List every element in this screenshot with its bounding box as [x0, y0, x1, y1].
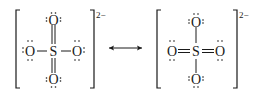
left-bracket-close — [90, 10, 94, 88]
oxygen-top: O — [48, 13, 58, 28]
resonance-diagram: 2− S O O O O — [0, 0, 257, 95]
oxygen-right: O — [72, 44, 82, 59]
sulfur-atom: S — [50, 44, 58, 59]
oxygen-right: O — [215, 44, 225, 59]
left-charge-label: 2− — [96, 10, 106, 20]
sulfur-atom: S — [192, 44, 200, 59]
oxygen-left: O — [167, 44, 177, 59]
left-bracket-open — [16, 10, 20, 88]
oxygen-left: O — [25, 44, 35, 59]
oxygen-bottom: O — [48, 72, 58, 87]
right-charge-label: 2− — [239, 10, 249, 20]
oxygen-bottom: O — [191, 72, 201, 87]
right-structure: 2− S O O O O — [157, 10, 249, 88]
resonance-arrow — [109, 46, 142, 51]
left-structure: 2− S O O O O — [16, 10, 106, 88]
oxygen-top: O — [191, 15, 201, 30]
right-bracket-open — [157, 10, 161, 88]
right-bracket-close — [233, 10, 237, 88]
